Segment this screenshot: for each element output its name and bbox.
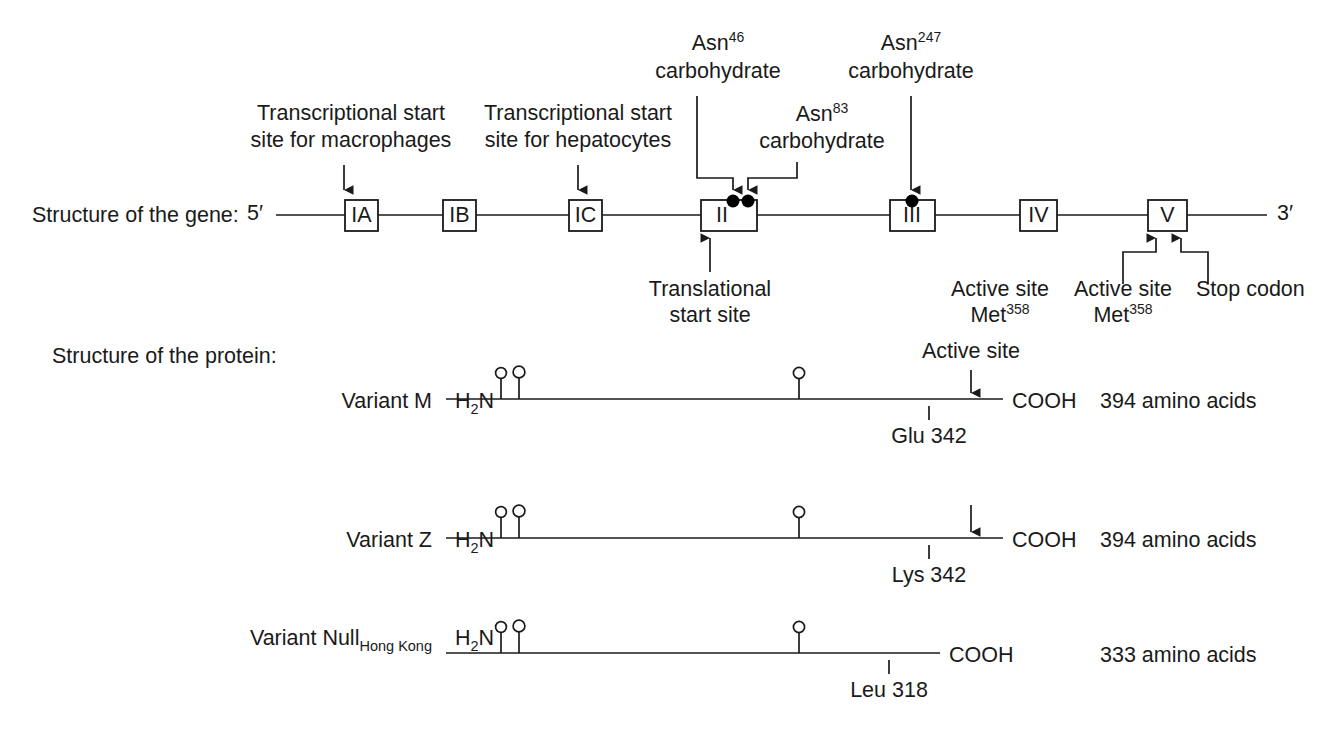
asn83-label: Asn83 xyxy=(796,100,849,126)
variant-z-n-terminus: H2N xyxy=(455,528,494,556)
variant-z-c-terminus: COOH xyxy=(1012,528,1077,552)
annotation-asn46: Asn46 carbohydrate xyxy=(655,29,781,190)
variant-m-label: Variant M xyxy=(342,389,432,413)
exon-box-IA[interactable]: IA xyxy=(345,200,378,231)
variant-z-glycosylation-sites xyxy=(496,505,805,538)
alpha1-antitrypsin-gene-protein-diagram: Structure of the gene: 5′ 3′ IA IB IC xyxy=(0,0,1334,731)
translational-start-line1: Translational xyxy=(649,277,771,301)
annotation-asn83: Asn83 carbohydrate xyxy=(748,100,885,190)
variant-z-label: Variant Z xyxy=(346,528,432,552)
variant-null-n-terminus: H2N xyxy=(455,626,494,654)
asn83-leader-line xyxy=(748,162,797,190)
variant-z-length: 394 amino acids xyxy=(1100,528,1257,552)
asn83-line2: carbohydrate xyxy=(759,129,885,153)
variant-null-residue: Leu 318 xyxy=(850,660,928,702)
annotation-active-site-met-exonv: Active site Met358 xyxy=(1074,238,1172,327)
active-site-met-exonv-line1: Active site xyxy=(1074,277,1172,301)
exon-box-II[interactable]: II xyxy=(701,195,757,232)
glycosylation-dot-asn83 xyxy=(742,195,755,208)
asn247-line2: carbohydrate xyxy=(848,59,974,83)
variant-m-active-site: Active site xyxy=(922,339,1020,393)
variant-m-n-terminus: H2N xyxy=(455,389,494,417)
variant-null-glycosylation-sites xyxy=(496,620,805,653)
exon-label-II: II xyxy=(716,203,728,227)
variant-m-length: 394 amino acids xyxy=(1100,389,1257,413)
protein-section: Structure of the protein: Variant M H2N … xyxy=(52,339,1257,702)
protein-row-variant-null-hong-kong: Variant NullHong Kong H2N Leu 318 COOH 3… xyxy=(250,620,1257,702)
variant-null-c-terminus: COOH xyxy=(949,643,1014,667)
variant-null-label: Variant NullHong Kong xyxy=(250,626,432,654)
exon-box-IB[interactable]: IB xyxy=(443,200,476,231)
annotation-hepatocyte-start: Transcriptional start site for hepatocyt… xyxy=(484,101,672,190)
asn247-label: Asn247 xyxy=(881,29,942,55)
annotation-macrophage-start: Transcriptional start site for macrophag… xyxy=(251,101,452,190)
hepatocyte-start-line2: site for hepatocytes xyxy=(485,128,671,152)
asn46-line2: carbohydrate xyxy=(655,59,781,83)
variant-m-glycosylation-sites xyxy=(496,366,805,399)
annotation-asn247: Asn247 carbohydrate xyxy=(848,29,974,190)
variant-m-residue-label: Glu 342 xyxy=(891,424,966,448)
exon-label-IC: IC xyxy=(575,203,597,227)
variant-m-active-site-label: Active site xyxy=(922,339,1020,363)
variant-z-residue-label: Lys 342 xyxy=(892,563,967,587)
active-site-met-exonv-line2: Met358 xyxy=(1093,301,1152,327)
hepatocyte-start-line1: Transcriptional start xyxy=(484,101,672,125)
variant-z-residue: Lys 342 xyxy=(892,545,967,587)
exon-label-IA: IA xyxy=(351,203,372,227)
exon-box-IV[interactable]: IV xyxy=(1020,200,1057,231)
active-site-met-free-line2: Met358 xyxy=(970,301,1029,327)
macrophage-start-line1: Transcriptional start xyxy=(257,101,445,125)
exon-box-V[interactable]: V xyxy=(1148,200,1187,231)
glycosylation-dot-asn247 xyxy=(906,195,919,208)
three-prime-label: 3′ xyxy=(1277,201,1293,225)
protein-row-variant-m: Variant M H2N Active site Glu 342 C xyxy=(342,339,1257,448)
glycosylation-dot-asn46 xyxy=(727,195,740,208)
variant-null-residue-label: Leu 318 xyxy=(850,678,928,702)
annotation-translational-start: Translational start site xyxy=(649,238,771,327)
stop-codon-label: Stop codon xyxy=(1196,277,1305,301)
translational-start-line2: start site xyxy=(669,303,750,327)
protein-row-label: Structure of the protein: xyxy=(52,344,277,368)
annotation-active-site-met-free: Active site Met358 xyxy=(951,277,1049,327)
protein-row-variant-z: Variant Z H2N Lys 342 COOH 394 amino aci… xyxy=(346,505,1256,587)
exon-label-IB: IB xyxy=(449,203,469,227)
exon-label-IV: IV xyxy=(1028,203,1049,227)
variant-null-length: 333 amino acids xyxy=(1100,643,1257,667)
gene-row-label: Structure of the gene: xyxy=(32,203,239,227)
variant-m-c-terminus: COOH xyxy=(1012,389,1077,413)
exon-label-V: V xyxy=(1160,203,1175,227)
macrophage-start-line2: site for macrophages xyxy=(251,128,452,152)
exon-box-IC[interactable]: IC xyxy=(569,200,602,231)
asn46-label: Asn46 xyxy=(692,29,745,55)
exon-box-III[interactable]: III xyxy=(890,195,935,232)
active-site-met-free-line1: Active site xyxy=(951,277,1049,301)
variant-m-residue: Glu 342 xyxy=(891,406,966,448)
five-prime-label: 5′ xyxy=(247,201,263,225)
asn46-leader-line xyxy=(697,96,733,190)
gene-section: Structure of the gene: 5′ 3′ IA IB IC xyxy=(32,29,1305,327)
annotation-stop-codon: Stop codon xyxy=(1181,238,1305,301)
